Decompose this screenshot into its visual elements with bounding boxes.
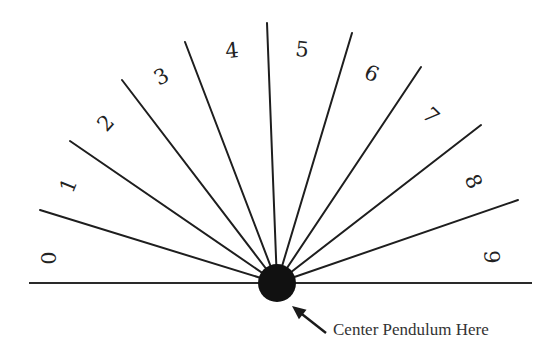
- ray-line-8: [277, 200, 518, 283]
- pendulum-chart: 0123456789 Center Pendulum Here: [0, 0, 559, 355]
- pendulum-center-dot: [258, 264, 296, 302]
- number-label-3: 3: [150, 63, 173, 90]
- number-label-1: 1: [55, 175, 82, 196]
- ray-line-4: [267, 23, 277, 283]
- caption-center-pendulum-here: Center Pendulum Here: [333, 320, 489, 339]
- ray-line-0: [40, 210, 277, 283]
- number-label-6: 6: [361, 60, 383, 87]
- pendulum-diagram-canvas: 0123456789 Center Pendulum Here: [0, 0, 559, 355]
- arrow-icon: [292, 306, 326, 333]
- ray-group: [40, 23, 518, 283]
- number-label-8: 8: [460, 170, 487, 192]
- number-label-5: 5: [294, 37, 310, 62]
- ray-line-1: [70, 141, 277, 283]
- number-label-7: 7: [418, 103, 444, 130]
- ray-line-5: [277, 33, 352, 283]
- ray-line-6: [277, 67, 421, 283]
- number-label-4: 4: [224, 38, 240, 63]
- ray-line-2: [122, 80, 277, 283]
- ray-line-3: [185, 42, 277, 283]
- ray-line-7: [277, 125, 481, 283]
- number-label-2: 2: [92, 110, 119, 136]
- number-label-0: 0: [37, 251, 61, 264]
- number-label-9: 9: [479, 250, 503, 264]
